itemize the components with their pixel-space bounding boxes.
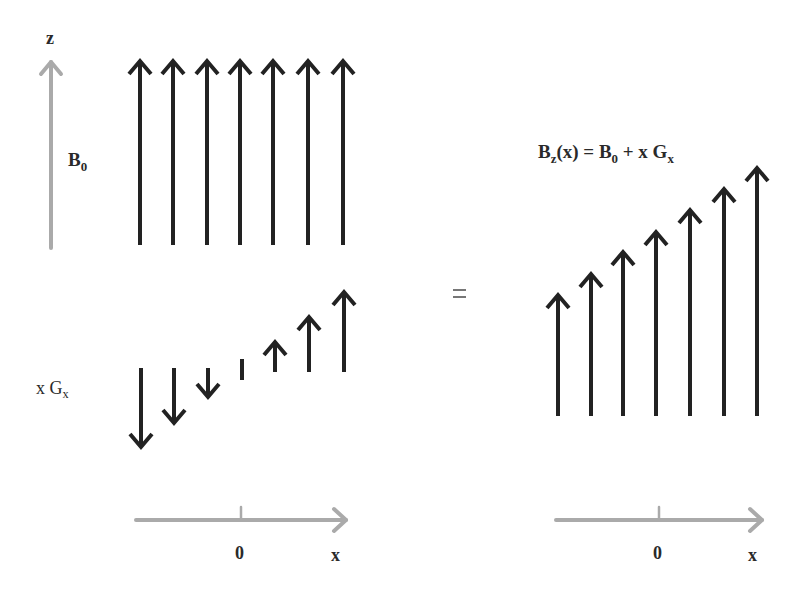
b0-arrow — [262, 61, 284, 245]
bz-arrow — [612, 252, 634, 416]
gradient-arrow-up — [298, 317, 320, 372]
formula-label: Bz(x) = B0 + x Gx — [538, 141, 674, 163]
total-field-arrows — [547, 168, 768, 416]
gradient-field-arrows — [130, 292, 355, 447]
formula-tail: + x G — [618, 141, 667, 162]
equals-sign — [453, 290, 466, 297]
xgx-label-main: x G — [36, 378, 63, 398]
b0-label-sub: 0 — [81, 159, 87, 174]
gradient-arrow-down — [197, 368, 219, 397]
diagram-canvas — [0, 0, 803, 596]
right-axis-zero-label: 0 — [653, 543, 662, 564]
formula-gx-sub: x — [667, 151, 673, 166]
formula-b: B — [538, 141, 551, 162]
z-axis-label: z — [46, 28, 54, 49]
left-axis-zero-label: 0 — [235, 543, 244, 564]
b0-label-main: B — [68, 149, 81, 170]
b0-label: B0 — [68, 149, 87, 171]
b0-arrow — [129, 61, 151, 245]
right-x-axis — [556, 507, 762, 531]
gradient-arrow-up — [333, 292, 355, 372]
left-axis-x-label: x — [331, 545, 340, 566]
xgx-label: x Gx — [36, 378, 69, 399]
gradient-arrow-down — [163, 368, 185, 423]
bz-arrow — [746, 168, 768, 416]
bz-arrow — [645, 232, 667, 416]
bz-arrow — [580, 274, 602, 416]
right-axis-x-label: x — [748, 545, 757, 566]
b0-arrow — [162, 61, 184, 245]
bz-arrow — [713, 189, 735, 416]
gradient-arrow-up — [264, 342, 286, 372]
b0-field-arrows — [129, 61, 354, 245]
b0-arrow — [332, 61, 354, 245]
left-x-axis — [136, 507, 346, 531]
b0-arrow — [196, 61, 218, 245]
z-axis-arrow — [41, 62, 61, 248]
bz-arrow — [679, 210, 701, 416]
bz-arrow — [547, 295, 569, 416]
xgx-label-sub: x — [63, 387, 69, 401]
b0-arrow — [229, 61, 251, 245]
formula-mid: (x) = B — [556, 141, 611, 162]
b0-arrow — [297, 61, 319, 245]
gradient-arrow-down — [130, 368, 152, 447]
